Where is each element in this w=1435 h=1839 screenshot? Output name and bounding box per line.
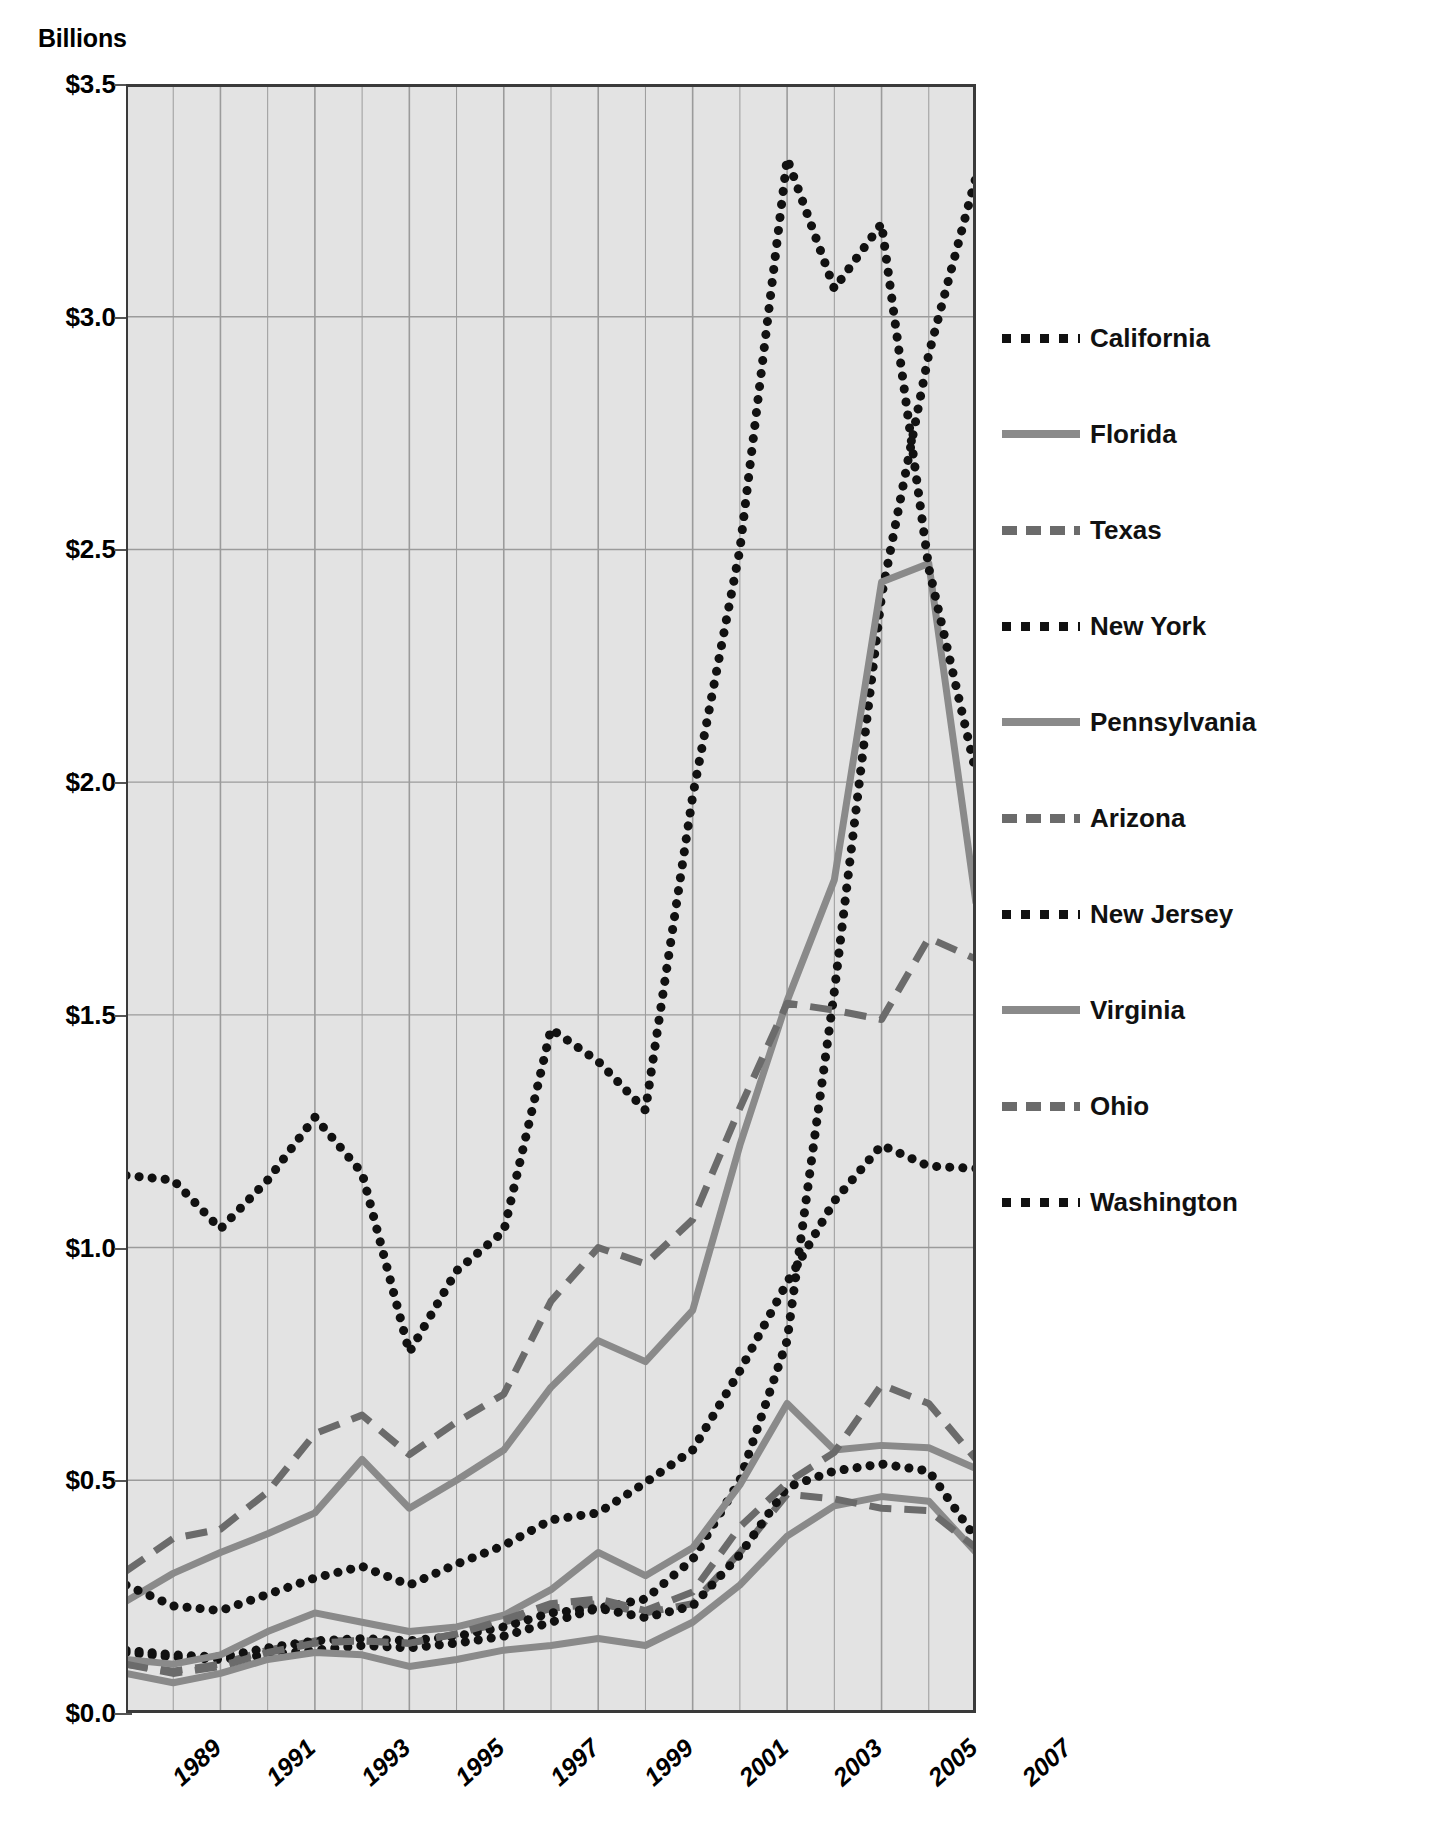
x-tick-label: 1997 xyxy=(544,1733,605,1792)
legend-label: New Jersey xyxy=(1090,899,1233,930)
legend-swatch-dashed-icon xyxy=(1002,1102,1080,1111)
x-tick-label: 2001 xyxy=(733,1733,794,1792)
legend-item-new-york[interactable]: New York xyxy=(1002,578,1432,674)
x-tick-label: 2003 xyxy=(827,1733,888,1792)
y-tick-label: $2.0 xyxy=(24,767,116,798)
legend-swatch-dotted-icon xyxy=(1002,334,1080,343)
legend-label: Ohio xyxy=(1090,1091,1149,1122)
legend-item-arizona[interactable]: Arizona xyxy=(1002,770,1432,866)
plot-area xyxy=(126,84,976,1713)
legend-item-florida[interactable]: Florida xyxy=(1002,386,1432,482)
legend-item-texas[interactable]: Texas xyxy=(1002,482,1432,578)
x-tick-label: 1999 xyxy=(639,1733,700,1792)
chart-legend: CaliforniaFloridaTexasNew YorkPennsylvan… xyxy=(1002,290,1432,1250)
legend-label: Florida xyxy=(1090,419,1177,450)
x-tick-label: 1991 xyxy=(261,1733,322,1792)
x-tick-label: 1993 xyxy=(355,1733,416,1792)
x-axis-tick-labels: 1989199119931995199719992001200320052007 xyxy=(0,1725,1000,1835)
y-tick-label: $1.5 xyxy=(24,999,116,1030)
legend-swatch-solid-icon xyxy=(1002,718,1080,726)
line-chart: Billions $3.5$3.0$2.5$2.0$1.5$1.0$0.5$0.… xyxy=(0,0,1435,1839)
x-tick-label: 2005 xyxy=(922,1733,983,1792)
legend-swatch-dashed-icon xyxy=(1002,526,1080,535)
legend-item-california[interactable]: California xyxy=(1002,290,1432,386)
plot-svg xyxy=(126,84,976,1713)
x-tick-label: 2007 xyxy=(1016,1733,1077,1792)
legend-label: Arizona xyxy=(1090,803,1185,834)
legend-item-pennsylvania[interactable]: Pennsylvania xyxy=(1002,674,1432,770)
legend-swatch-dotted-icon xyxy=(1002,622,1080,631)
y-tick-label: $1.0 xyxy=(24,1232,116,1263)
legend-label: New York xyxy=(1090,611,1206,642)
y-tick-mark xyxy=(114,1713,132,1715)
legend-item-washington[interactable]: Washington xyxy=(1002,1154,1432,1250)
legend-swatch-solid-icon xyxy=(1002,1006,1080,1014)
x-tick-label: 1989 xyxy=(166,1733,227,1792)
legend-label: Virginia xyxy=(1090,995,1185,1026)
legend-item-new-jersey[interactable]: New Jersey xyxy=(1002,866,1432,962)
legend-label: Pennsylvania xyxy=(1090,707,1256,738)
legend-label: California xyxy=(1090,323,1210,354)
legend-item-virginia[interactable]: Virginia xyxy=(1002,962,1432,1058)
legend-swatch-dotted-icon xyxy=(1002,1198,1080,1207)
legend-label: Texas xyxy=(1090,515,1162,546)
y-axis-tick-labels: $3.5$3.0$2.5$2.0$1.5$1.0$0.5$0.0 xyxy=(10,0,116,1839)
legend-item-ohio[interactable]: Ohio xyxy=(1002,1058,1432,1154)
y-tick-label: $2.5 xyxy=(24,534,116,565)
x-tick-label: 1995 xyxy=(450,1733,511,1792)
legend-swatch-dotted-icon xyxy=(1002,910,1080,919)
y-tick-label: $3.0 xyxy=(24,301,116,332)
y-tick-label: $3.5 xyxy=(24,69,116,100)
y-tick-label: $0.0 xyxy=(24,1698,116,1729)
legend-swatch-solid-icon xyxy=(1002,430,1080,438)
legend-swatch-dashed-icon xyxy=(1002,814,1080,823)
legend-label: Washington xyxy=(1090,1187,1238,1218)
y-tick-label: $0.5 xyxy=(24,1465,116,1496)
